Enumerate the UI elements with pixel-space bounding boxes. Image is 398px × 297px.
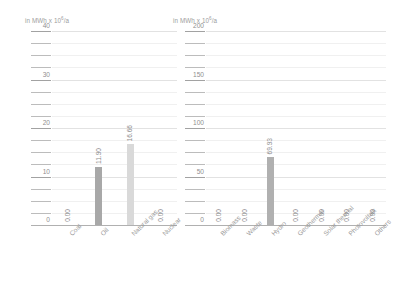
y-axis-tick-minor — [185, 67, 205, 68]
x-axis-category-label: Nuclear — [161, 216, 182, 237]
bar-value-label: 69.93 — [266, 138, 273, 155]
bar-slot: 0.00Solar thermal — [309, 31, 335, 225]
bar[interactable] — [95, 167, 102, 225]
y-axis-tick-major — [31, 80, 51, 81]
y-axis-tick-minor — [31, 92, 51, 93]
y-axis-tick-minor — [31, 140, 51, 141]
charts-container: in MWh x 106/a 0102030400.00Coal11.90Oil… — [0, 0, 398, 297]
y-axis-tick-minor — [185, 140, 205, 141]
y-axis-tick-major — [185, 128, 205, 129]
y-axis-tick-major — [31, 128, 51, 129]
y-axis-tick-label: 20 — [28, 119, 50, 126]
bar-slot: 0.00Biomass — [206, 31, 232, 225]
y-axis-tick-label: 30 — [28, 71, 50, 78]
y-axis-tick-label: 100 — [182, 119, 204, 126]
y-axis-tick-minor — [31, 116, 51, 117]
bar-value-label: 11.90 — [95, 148, 102, 164]
y-axis-tick-major — [185, 31, 205, 32]
y-axis-tick-minor — [185, 189, 205, 190]
x-axis-category-label: Coal — [68, 222, 83, 237]
y-axis-tick-minor — [185, 104, 205, 105]
bar-slot: 0.00Waste — [232, 31, 258, 225]
y-axis-tick-minor — [185, 164, 205, 165]
bar-value-label: 0.00 — [157, 209, 164, 222]
bar-value-label: 0.00 — [318, 209, 325, 222]
plot-area: 0102030400.00Coal11.90Oil16.66Natural ga… — [52, 31, 177, 225]
chart-panel-fossil: in MWh x 106/a 0102030400.00Coal11.90Oil… — [0, 0, 199, 297]
bar-value-label: 0.00 — [215, 209, 222, 222]
bar-slot: 0.00Others — [360, 31, 386, 225]
y-axis-tick-major — [31, 31, 51, 32]
y-axis-tick-major — [185, 177, 205, 178]
y-axis-tick-major — [185, 80, 205, 81]
y-axis-tick-minor — [31, 201, 51, 202]
bar-slot: 0.00Photovoltaik — [335, 31, 361, 225]
plot-area: 0501001502000.00Biomass0.00Waste69.93Hyd… — [206, 31, 386, 225]
bar-series: 0.00Coal11.90Oil16.66Natural gas0.00Nucl… — [52, 31, 177, 225]
bar-slot: 0.00Nuclear — [146, 31, 177, 225]
y-axis-tick-major — [31, 177, 51, 178]
y-axis-tick-minor — [31, 164, 51, 165]
bar[interactable] — [267, 157, 274, 225]
bar-slot: 11.90Oil — [83, 31, 114, 225]
y-axis-tick-minor — [185, 43, 205, 44]
y-axis-tick-minor — [185, 92, 205, 93]
y-axis-tick-minor — [31, 43, 51, 44]
y-axis-tick-minor — [185, 55, 205, 56]
bar-value-label: 0.00 — [369, 209, 376, 222]
x-axis-category-label: Others — [373, 218, 392, 237]
y-axis-tick-minor — [31, 55, 51, 56]
x-axis-category-label: Oil — [99, 226, 110, 237]
y-axis-tick-minor — [185, 201, 205, 202]
bar-value-label: 0.00 — [343, 209, 350, 222]
y-axis-tick-minor — [31, 67, 51, 68]
y-axis-tick-minor — [185, 213, 205, 214]
y-axis-tick-minor — [31, 152, 51, 153]
unit-label-suffix: /a — [212, 17, 217, 24]
y-axis-tick-label: 50 — [182, 168, 204, 175]
y-axis-tick-label: 0 — [182, 216, 204, 223]
y-axis-tick-minor — [31, 104, 51, 105]
y-axis-tick-label: 150 — [182, 71, 204, 78]
y-axis-tick-label: 200 — [182, 22, 204, 29]
y-axis-tick-label: 10 — [28, 168, 50, 175]
y-axis-tick-label: 0 — [28, 216, 50, 223]
bar-value-label: 0.00 — [241, 209, 248, 222]
y-axis-tick-minor — [31, 189, 51, 190]
y-axis-tick-minor — [185, 116, 205, 117]
bar[interactable] — [127, 144, 134, 225]
bar-slot: 16.66Natural gas — [115, 31, 146, 225]
y-axis-tick-label: 40 — [28, 22, 50, 29]
bar-slot: 0.00Geothermal — [283, 31, 309, 225]
y-axis-tick-minor — [185, 152, 205, 153]
bar-value-label: 0.00 — [64, 209, 71, 222]
bar-slot: 69.93Hydro — [257, 31, 283, 225]
bar-series: 0.00Biomass0.00Waste69.93Hydro0.00Geothe… — [206, 31, 386, 225]
bar-value-label: 0.00 — [292, 209, 299, 222]
chart-panel-renewable: in MWh x 106/a 0501001502000.00Biomass0.… — [199, 0, 398, 297]
bar-value-label: 16.66 — [126, 125, 133, 142]
unit-label-suffix: /a — [64, 17, 69, 24]
y-axis-tick-minor — [31, 213, 51, 214]
bar-slot: 0.00Coal — [52, 31, 83, 225]
